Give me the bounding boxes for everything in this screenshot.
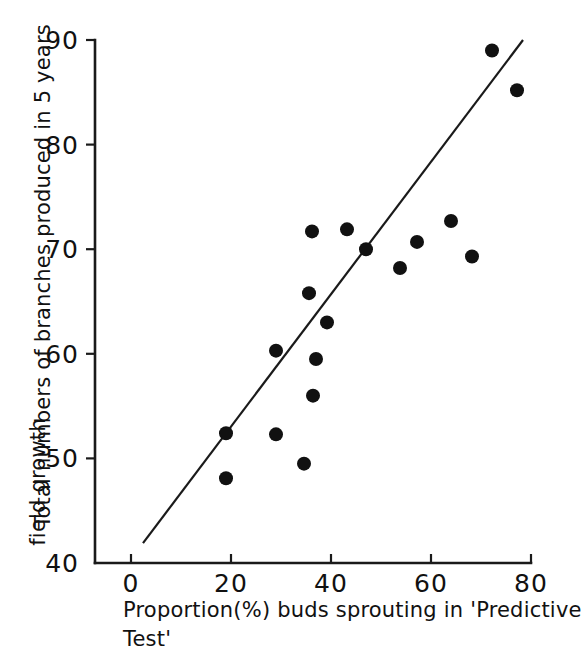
axes-group <box>95 40 531 563</box>
fit-line-segment <box>143 40 523 543</box>
data-point <box>393 261 407 275</box>
data-point <box>309 352 323 366</box>
data-point <box>320 315 334 329</box>
data-point <box>305 224 319 238</box>
x-axis-tick-label: 80 <box>514 569 548 598</box>
y-axis-tick-label: 40 <box>45 549 79 578</box>
data-point <box>306 389 320 403</box>
data-point <box>410 235 424 249</box>
x-axis-tick-label: 0 <box>123 569 140 598</box>
x-axis-tick-label: 40 <box>314 569 348 598</box>
data-point <box>340 222 354 236</box>
x-axis-tick-label: 20 <box>214 569 248 598</box>
data-point <box>485 43 499 57</box>
x-axis-tick-label: 60 <box>414 569 448 598</box>
tick-labels-group: 405060708090020406080 <box>45 26 548 598</box>
regression-line <box>143 40 523 543</box>
data-points-group <box>219 43 524 485</box>
y-axis-title-line2: field growth <box>26 412 50 552</box>
data-point <box>302 286 316 300</box>
data-point <box>269 427 283 441</box>
data-point <box>219 471 233 485</box>
data-point <box>219 426 233 440</box>
x-axis-title-line2: Test' <box>123 627 171 650</box>
data-point <box>269 344 283 358</box>
data-point <box>465 250 479 264</box>
data-point <box>297 457 311 471</box>
data-point <box>444 214 458 228</box>
x-axis-title-line1: Proportion(%) buds sprouting in 'Predict… <box>123 598 582 622</box>
data-point <box>510 83 524 97</box>
data-point <box>359 242 373 256</box>
